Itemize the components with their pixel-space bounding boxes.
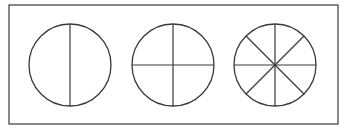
circles-group: [29, 24, 316, 106]
division-line: [246, 65, 275, 94]
circle-quarters: [132, 24, 214, 106]
division-line: [246, 36, 275, 65]
division-line: [275, 36, 304, 65]
division-line: [275, 65, 304, 94]
circle-eighths: [234, 24, 316, 106]
circle-halves: [29, 24, 111, 106]
fraction-circles-diagram: [0, 0, 354, 129]
